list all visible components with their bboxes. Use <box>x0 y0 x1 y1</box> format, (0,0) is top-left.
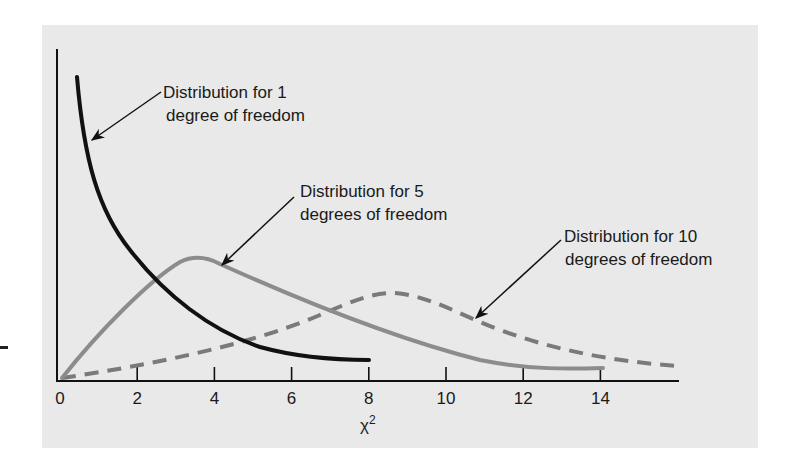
chi-square-chart: 02468101214 Distribution for 1 degree of… <box>0 0 794 470</box>
x-tick-label: 6 <box>287 389 296 408</box>
x-tick-label: 12 <box>514 389 533 408</box>
annotation-df5-line2: degrees of freedom <box>300 205 447 224</box>
x-tick-label: 0 <box>55 389 64 408</box>
margin-dash <box>0 346 8 349</box>
x-tick-label: 8 <box>364 389 373 408</box>
annotation-df10-line1: Distribution for 10 <box>564 227 697 246</box>
x-tick-label: 10 <box>437 389 456 408</box>
x-tick-label: 4 <box>210 389 219 408</box>
annotation-df10-line2: degrees of freedom <box>565 250 712 269</box>
annotation-df1-line2: degree of freedom <box>166 106 305 125</box>
x-tick-label: 2 <box>132 389 141 408</box>
annotation-df1-line1: Distribution for 1 <box>163 83 287 102</box>
annotation-df5-line1: Distribution for 5 <box>300 182 424 201</box>
x-tick-label: 14 <box>591 389 610 408</box>
